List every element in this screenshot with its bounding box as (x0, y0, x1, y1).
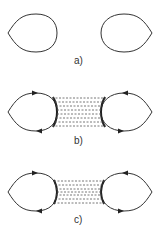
panel-label-b: b) (74, 135, 83, 146)
arrow-icon (36, 129, 42, 134)
right-loop (101, 14, 152, 52)
panel-a-diagram (8, 14, 152, 52)
arrow-icon (118, 129, 124, 134)
arrow-icon (32, 91, 38, 96)
arrow-icon (118, 209, 124, 214)
diagram (0, 0, 160, 232)
left-loop (8, 93, 57, 131)
left-loop-thick-edge (54, 180, 57, 204)
panel-label-c: c) (74, 214, 82, 225)
right-loop (101, 93, 152, 131)
arrow-icon (32, 171, 38, 176)
arrow-icon (36, 209, 42, 214)
left-loop (8, 173, 57, 211)
left-loop-thick-edge (53, 97, 57, 127)
arrow-icon (122, 171, 128, 176)
panel-b-diagram (8, 91, 152, 134)
right-loop (101, 173, 152, 211)
panel-label-a: a) (74, 55, 83, 66)
dashed-lines (52, 98, 106, 126)
left-loop (8, 14, 57, 52)
right-loop-thick-edge (101, 180, 104, 204)
arrow-icon (122, 91, 128, 96)
panel-c-diagram (8, 171, 152, 214)
dashed-lines (54, 181, 104, 203)
